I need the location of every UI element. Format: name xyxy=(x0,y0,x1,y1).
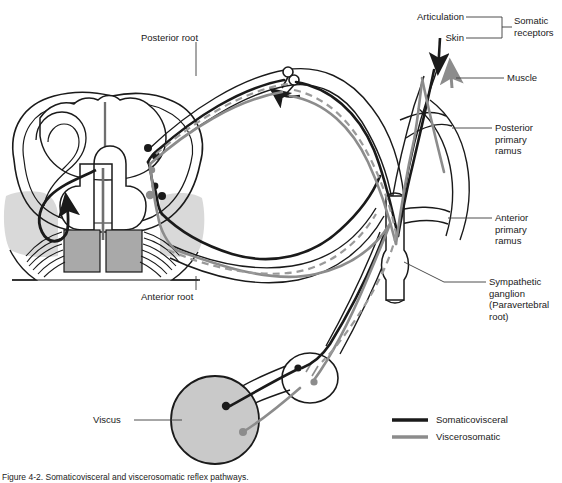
label-sympathetic-ganglion: Sympathetic ganglion (Paravertebral root… xyxy=(489,276,549,322)
dorsal-surface xyxy=(40,96,166,181)
figure-canvas: Posterior root Anterior root Articulatio… xyxy=(0,0,562,483)
label-anterior-primary-ramus: Anterior primary ramus xyxy=(495,212,562,247)
ventral-column-left xyxy=(64,230,100,272)
label-posterior-root: Posterior root xyxy=(141,32,198,44)
label-posterior-primary-ramus: Posterior primary ramus xyxy=(495,122,562,157)
legend-label-viscerosomatic: Viscerosomatic xyxy=(436,431,500,443)
label-skin: Skin xyxy=(396,32,464,44)
label-articulation: Articulation xyxy=(396,11,464,23)
muscle-efferent-arrow xyxy=(450,62,452,88)
label-viscus: Viscus xyxy=(93,414,121,426)
label-muscle: Muscle xyxy=(507,72,537,84)
legend-swatches xyxy=(392,420,428,437)
anatomy-diagram-svg xyxy=(0,0,562,483)
figure-caption: Figure 4-2. Somaticovisceral and viscero… xyxy=(2,472,558,483)
legend-label-somaticovisceral: Somaticovisceral xyxy=(436,414,508,426)
label-somatic-receptors: Somatic receptors xyxy=(514,15,554,38)
ventral-column-right xyxy=(106,230,142,272)
vertebral-shading-right xyxy=(160,193,205,257)
viscus-organ xyxy=(171,376,259,464)
leader-sympathetic-ganglion xyxy=(404,262,486,282)
label-anterior-root: Anterior root xyxy=(141,291,193,303)
bracket-somatic-receptors xyxy=(494,17,512,38)
